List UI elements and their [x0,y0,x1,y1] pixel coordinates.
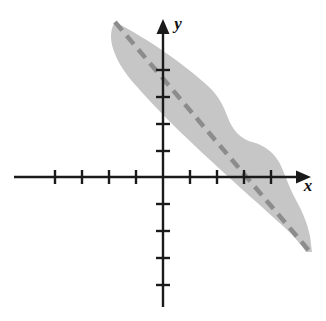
coordinate-plane-svg: x y [0,0,326,321]
graph-figure: x y [0,0,326,321]
dashed-boundary-line [115,22,311,253]
y-axis-arrowhead [157,19,170,34]
boundary-line-segment [115,22,311,253]
x-axis-label: x [303,176,313,195]
y-axis-label: y [172,14,182,33]
